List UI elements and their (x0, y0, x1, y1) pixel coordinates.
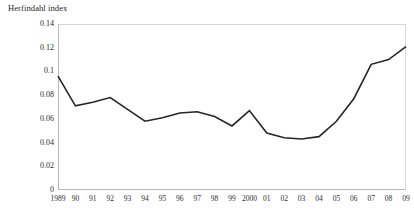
x-axis: 1989909192939495969798992000010203040506… (58, 194, 406, 210)
x-axis-tick-label: 97 (193, 194, 201, 203)
x-axis-tick-label: 98 (211, 194, 219, 203)
x-axis-tick-label: 04 (315, 194, 323, 203)
y-axis-tick-label: 0.02 (0, 162, 54, 170)
x-axis-tick-label: 91 (89, 194, 97, 203)
x-axis-tick-label: 99 (228, 194, 236, 203)
x-axis-tick-label: 02 (280, 194, 288, 203)
y-axis-tick-label: 0.06 (0, 115, 54, 123)
x-axis-tick-label: 01 (263, 194, 271, 203)
x-axis-tick-label: 94 (141, 194, 149, 203)
x-axis-tick-label: 08 (385, 194, 393, 203)
x-axis-tick-label: 90 (72, 194, 80, 203)
chart-title: Herfindahl index (8, 3, 67, 13)
x-axis-tick-label: 95 (159, 194, 167, 203)
y-axis-tick-label: 0.1 (0, 67, 54, 75)
x-axis-tick-label: 1989 (51, 194, 66, 203)
x-axis-tick-label: 09 (402, 194, 410, 203)
x-axis-tick-label: 05 (333, 194, 341, 203)
x-axis-tick-label: 2000 (242, 194, 257, 203)
series-line-herfindahl-index (58, 24, 406, 190)
y-axis-tick-label: 0.12 (0, 44, 54, 52)
x-axis-tick-label: 03 (298, 194, 306, 203)
y-axis-tick-label: 0.08 (0, 91, 54, 99)
herfindahl-index-chart: Herfindahl index 00.020.040.060.080.10.1… (0, 0, 414, 221)
x-axis-tick-label: 93 (124, 194, 132, 203)
y-axis-tick-label: 0.14 (0, 20, 54, 28)
y-axis-tick-label: 0.04 (0, 139, 54, 147)
x-axis-tick-label: 06 (350, 194, 358, 203)
x-axis-tick-label: 07 (367, 194, 375, 203)
y-axis: 00.020.040.060.080.10.120.14 (0, 24, 54, 190)
x-axis-tick-label: 96 (176, 194, 184, 203)
x-axis-tick-label: 92 (106, 194, 114, 203)
series-path (58, 47, 406, 139)
y-axis-tick-label: 0 (0, 186, 54, 194)
